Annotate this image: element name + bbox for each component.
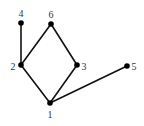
node-3 bbox=[74, 62, 80, 68]
node-1 bbox=[47, 100, 53, 106]
node-5 bbox=[124, 63, 130, 69]
graph-diagram: 123456 bbox=[0, 0, 144, 126]
node-2 bbox=[18, 62, 24, 68]
edge-2-1 bbox=[21, 65, 50, 103]
edges-group bbox=[21, 23, 127, 103]
edge-2-6 bbox=[21, 24, 51, 65]
edge-1-5 bbox=[50, 66, 127, 103]
node-6 bbox=[48, 21, 54, 27]
labels-group: 123456 bbox=[11, 8, 137, 120]
node-label-5: 5 bbox=[132, 61, 137, 72]
nodes-group bbox=[18, 20, 130, 106]
node-label-1: 1 bbox=[48, 109, 53, 120]
edge-6-3 bbox=[51, 24, 77, 65]
node-4 bbox=[18, 20, 24, 26]
node-label-6: 6 bbox=[49, 9, 54, 20]
node-label-3: 3 bbox=[82, 61, 87, 72]
node-label-4: 4 bbox=[19, 8, 24, 19]
node-label-2: 2 bbox=[11, 61, 16, 72]
